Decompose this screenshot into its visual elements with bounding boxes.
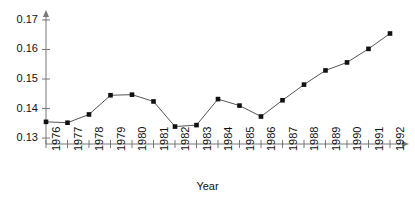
x-axis-title: Year xyxy=(0,180,415,192)
x-axis-tick-label: 1982 xyxy=(180,127,191,151)
data-point-marker xyxy=(302,82,307,87)
x-axis-tick-label: 1987 xyxy=(288,127,299,151)
y-axis-arrow-icon xyxy=(43,10,49,17)
x-axis-tick-label: 1976 xyxy=(51,127,62,151)
y-axis-tick-label: 0.16 xyxy=(6,43,38,54)
x-axis-tick-label: 1988 xyxy=(309,127,320,151)
x-axis-tick-label: 1977 xyxy=(73,127,84,151)
x-axis-tick-label: 1991 xyxy=(374,127,385,151)
x-axis-tick-label: 1986 xyxy=(266,127,277,151)
data-point-marker xyxy=(87,112,92,117)
x-axis-tick-label: 1985 xyxy=(245,127,256,151)
y-axis-tick-label: 0.17 xyxy=(6,14,38,25)
data-point-marker xyxy=(108,93,113,98)
data-series-line xyxy=(46,34,390,127)
x-axis-tick-label: 1981 xyxy=(159,127,170,151)
data-point-marker xyxy=(216,97,221,102)
data-point-marker xyxy=(345,60,350,65)
data-point-marker xyxy=(237,103,242,108)
x-axis-tick-label: 1978 xyxy=(94,127,105,151)
data-point-marker xyxy=(280,98,285,103)
y-axis-tick-label: 0.15 xyxy=(6,73,38,84)
x-axis-tick-label: 1983 xyxy=(202,127,213,151)
y-axis-tick-label: 0.13 xyxy=(6,132,38,143)
data-point-marker xyxy=(323,68,328,73)
data-series-markers xyxy=(44,31,393,129)
data-point-marker xyxy=(259,114,264,119)
chart-plot-area xyxy=(0,0,415,198)
x-axis-tick-label: 1989 xyxy=(331,127,342,151)
data-point-marker xyxy=(173,124,178,129)
y-axis-tick-label: 0.14 xyxy=(6,103,38,114)
data-point-marker xyxy=(65,120,70,125)
line-chart: 0.130.140.150.160.17 1976197719781979198… xyxy=(0,0,415,198)
data-point-marker xyxy=(44,120,49,125)
x-axis-tick-label: 1980 xyxy=(137,127,148,151)
data-point-marker xyxy=(151,99,156,104)
data-point-marker xyxy=(130,92,135,97)
data-point-marker xyxy=(388,31,393,36)
data-point-marker xyxy=(366,47,371,52)
x-axis-tick-label: 1990 xyxy=(352,127,363,151)
data-point-marker xyxy=(194,123,199,128)
x-axis-tick-label: 1979 xyxy=(116,127,127,151)
x-axis-tick-label: 1992 xyxy=(395,127,406,151)
x-axis-tick-label: 1984 xyxy=(223,127,234,151)
